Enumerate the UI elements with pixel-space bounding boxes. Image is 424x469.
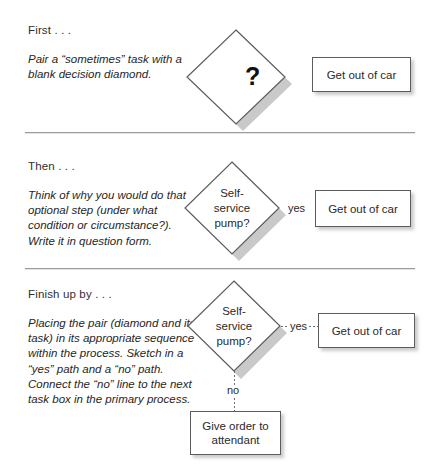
section-3-body: Placing the pair (diamond and its task) … xyxy=(28,316,196,407)
figure-canvas: First . . . Pair a “sometimes” task with… xyxy=(0,0,424,469)
section-2-body: Think of why you would do that optional … xyxy=(28,188,196,249)
section-3-decision-diamond: Self- service pump? xyxy=(188,281,280,371)
section-1-body: Pair a “sometimes” task with a blank dec… xyxy=(28,52,196,82)
section-2-task-box: Get out of car xyxy=(315,190,411,227)
section-3-heading: Finish up by . . . xyxy=(28,288,112,300)
diamond-label-line-2: service xyxy=(214,201,250,216)
section-divider-1 xyxy=(25,132,415,133)
section-3-yes-connector-left xyxy=(281,326,289,327)
section-1-task-box: Get out of car xyxy=(312,57,411,92)
diamond-label-line-3: pump? xyxy=(214,216,249,231)
task-box-no-line-2: attendant xyxy=(212,433,260,447)
section-3-yes-connector-right xyxy=(309,326,318,327)
section-2-yes-label: yes xyxy=(288,202,305,214)
diamond-label-line-2: service xyxy=(216,319,252,334)
section-2-heading: Then . . . xyxy=(28,160,75,172)
section-3-no-connector-lower xyxy=(234,398,235,412)
section-3-yes-label: yes xyxy=(290,320,307,332)
diamond-label-line-1: Self- xyxy=(220,186,244,201)
section-1-decision-diamond: ? xyxy=(187,30,285,124)
diamond-label-line-3: pump? xyxy=(216,334,251,349)
section-divider-2 xyxy=(25,268,415,269)
section-1-heading: First . . . xyxy=(28,24,71,36)
diamond-label-line-1: Self- xyxy=(222,304,246,319)
section-2-diamond-label: Self- service pump? xyxy=(185,162,279,254)
section-3-diamond-label: Self- service pump? xyxy=(188,281,280,371)
question-mark-icon: ? xyxy=(245,64,260,89)
section-3-task-box-yes: Get out of car xyxy=(318,313,415,348)
section-3-no-label: no xyxy=(227,384,239,396)
section-2-decision-diamond: Self- service pump? xyxy=(185,162,279,254)
task-box-no-line-1: Give order to xyxy=(202,419,268,433)
section-3-task-box-no: Give order to attendant xyxy=(190,411,281,455)
